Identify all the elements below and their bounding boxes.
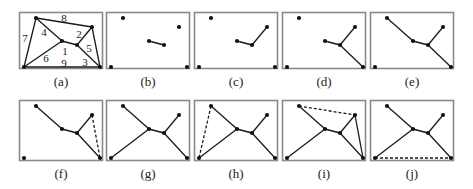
node-bl [373,65,377,69]
panel-graph [370,100,454,161]
node-bl [285,65,289,69]
edge [111,129,149,158]
node-tl [121,16,125,20]
node-c1 [147,127,151,131]
panel-label: (e) [370,74,454,90]
edge [375,129,413,158]
edge-label: 8 [61,12,67,24]
edge [387,106,413,129]
node-br [98,156,102,160]
node-tl [34,104,38,108]
node-br [185,156,189,160]
edge [387,18,413,41]
node-c1 [411,127,415,131]
node-br [185,65,189,69]
node-br [361,156,365,160]
panel-label: (d) [282,74,366,90]
node-bl [109,156,113,160]
node-bl [373,156,377,160]
node-c2 [162,131,166,135]
node-br [98,65,102,69]
edge [252,27,267,45]
panel-label: (f) [19,166,103,182]
panel-label: (c) [194,74,278,90]
panel-label: (g) [106,166,190,182]
edge [211,106,237,129]
edge [340,27,355,45]
edge-label: 7 [22,32,28,44]
node-tl [297,104,301,108]
node-c1 [323,127,327,131]
edge [164,133,187,158]
edge [413,129,428,133]
node-tr [265,25,269,29]
node-bl [285,156,289,160]
panel-graph [282,12,366,69]
panel-b [106,12,190,69]
node-br [361,65,365,69]
panel-a: 874215693 [19,12,103,69]
node-c2 [250,131,254,135]
node-tr [177,25,181,29]
panel-i [282,100,366,161]
node-tl [209,104,213,108]
panel-label: (i) [282,166,366,182]
node-tl [34,16,38,20]
node-br [449,156,453,160]
edge [237,129,252,133]
panel-label: (j) [370,166,454,182]
node-c2 [250,43,254,47]
edge-label: 6 [43,52,49,64]
node-c1 [235,127,239,131]
node-c1 [60,127,64,131]
panel-graph [282,100,366,161]
node-tr [441,25,445,29]
panel-graph [106,100,190,161]
node-br [449,65,453,69]
node-tr [441,113,445,117]
edge-label: 1 [62,45,68,57]
edge [252,133,275,158]
edge [413,41,428,45]
node-tl [385,16,389,20]
edge-label: 4 [41,26,47,38]
panel-label: (h) [194,166,278,182]
edge [149,41,164,45]
node-c2 [162,43,166,47]
panel-graph: 874215693 [19,12,103,69]
panel-c [194,12,278,69]
node-c1 [411,39,415,43]
panel-graph [194,12,278,69]
edge [77,115,92,133]
node-c2 [338,43,342,47]
node-tl [209,16,213,20]
node-bl [197,156,201,160]
node-c2 [426,131,430,135]
panel-graph [19,100,103,161]
node-bl [22,156,26,160]
edge [325,129,340,133]
node-tr [90,113,94,117]
edge [340,45,363,67]
edge [428,133,451,158]
node-c2 [426,43,430,47]
node-c1 [60,39,64,43]
node-c1 [147,39,151,43]
edge [237,41,252,45]
edge [164,115,179,133]
node-tr [353,113,357,117]
node-tl [385,104,389,108]
node-tr [353,25,357,29]
panel-f [19,100,103,161]
panel-label: (b) [106,74,190,90]
edge [252,115,267,133]
edge-label: 3 [82,56,88,68]
panel-d [282,12,366,69]
edge [149,129,164,133]
node-bl [197,65,201,69]
panel-label: (a) [19,74,103,90]
edge [199,129,237,158]
node-bl [22,65,26,69]
panel-graph [106,12,190,69]
edge [36,106,62,129]
